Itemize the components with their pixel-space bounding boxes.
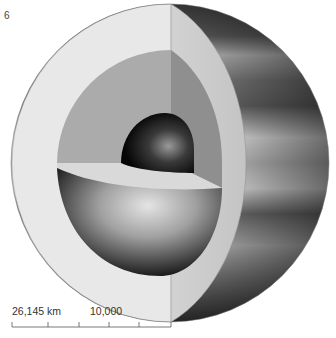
scale-bar [12, 322, 171, 327]
planet-cutaway-diagram [0, 0, 336, 338]
scale-tick-label: 10,000 [90, 305, 122, 317]
scale-total-label: 26,145 km [12, 305, 61, 317]
